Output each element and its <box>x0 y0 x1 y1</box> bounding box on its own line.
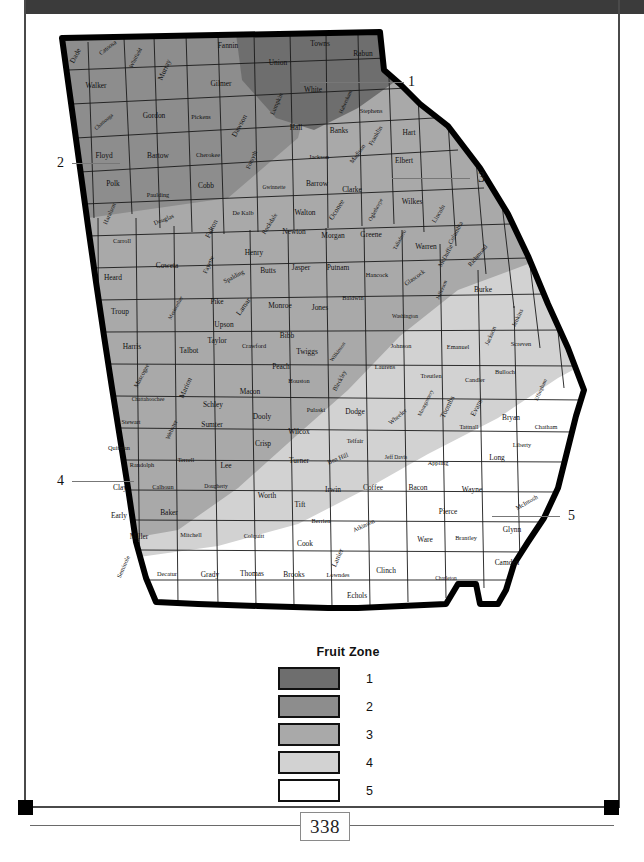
county-label: Fannin <box>218 41 239 50</box>
legend-item: 2 <box>278 695 418 718</box>
county-label: Grady <box>201 570 220 579</box>
county-label: Telfair <box>347 437 365 444</box>
legend-item: 3 <box>278 723 418 746</box>
county-label: Talbot <box>180 346 200 355</box>
county-label: Floyd <box>95 151 113 160</box>
county-label: Pulaski <box>307 406 326 413</box>
county-label: Jeff Davis <box>385 454 407 460</box>
county-label: Lowndes <box>326 571 350 578</box>
county-label: Mitchell <box>180 531 202 538</box>
county-label: Terrell <box>178 456 195 463</box>
callout-number-1: 1 <box>408 74 415 90</box>
county-label: Bibb <box>280 331 295 340</box>
county-label: Newton <box>282 227 306 236</box>
callout-number-4: 4 <box>57 473 64 489</box>
page-top-band <box>24 0 644 14</box>
county-label: Wayne <box>462 485 483 494</box>
page-border-right <box>618 0 620 808</box>
county-label: Crisp <box>255 439 271 448</box>
callout-leader-3 <box>392 178 470 179</box>
county-label: Pierce <box>439 507 458 516</box>
county-label: Turner <box>289 456 309 465</box>
legend-item: 1 <box>278 667 418 690</box>
county-label: Henry <box>245 248 264 257</box>
county-label: Hancock <box>366 271 389 278</box>
county-label: Cook <box>297 539 313 548</box>
map-svg: DadeCatoosaWhitfieldMurrayFanninUnionTow… <box>28 18 614 638</box>
county-label: Barrow <box>306 179 329 188</box>
county-label: Rabun <box>353 49 373 58</box>
county-label: Chattahoochee <box>132 396 165 402</box>
legend-label: 1 <box>366 672 373 686</box>
county-label: Charleton <box>435 575 457 581</box>
county-label: Dougherty <box>204 483 228 489</box>
legend-swatch-1 <box>278 667 340 690</box>
county-label: Chatham <box>535 423 558 430</box>
county-label: Stewart <box>121 418 140 425</box>
county-label: Sumter <box>201 420 223 429</box>
county-label: Emanuel <box>447 343 470 350</box>
county-label: Miller <box>130 532 149 541</box>
county-label: Camden <box>495 558 520 567</box>
legend-label: 2 <box>366 700 373 714</box>
county-label: Appling <box>428 459 449 466</box>
county-label: Upson <box>214 320 234 329</box>
county-label: Glynn <box>503 525 522 534</box>
county-label: Randolph <box>130 461 155 468</box>
legend-swatch-2 <box>278 695 340 718</box>
county-label: Towns <box>310 39 330 48</box>
callout-leader-1 <box>300 82 404 83</box>
page-border-left <box>24 0 26 808</box>
county-label: Harris <box>123 342 142 351</box>
legend-rows: 12345 <box>278 667 418 802</box>
county-label: Candler <box>465 376 486 383</box>
callout-number-5: 5 <box>568 508 575 524</box>
county-label: Seminole <box>115 554 131 579</box>
county-label: Bulloch <box>495 368 516 375</box>
county-label: Tattnall <box>459 423 478 430</box>
county-label: Baker <box>160 508 178 517</box>
county-label: Decatur <box>157 570 178 577</box>
county-label: Bacon <box>409 483 428 492</box>
county-label: Calhoun <box>152 483 174 490</box>
county-label: Liberty <box>513 441 532 448</box>
page-number: 338 <box>300 812 350 841</box>
legend-swatch-4 <box>278 751 340 774</box>
county-label: Bryan <box>502 413 520 422</box>
county-label: Greene <box>360 230 382 239</box>
county-label: Cobb <box>198 181 214 190</box>
county-label: Morgan <box>321 231 345 240</box>
callout-leader-4 <box>72 481 134 482</box>
county-label: Washington <box>392 313 418 319</box>
legend-title: Fruit Zone <box>278 645 418 659</box>
legend-item: 5 <box>278 779 418 802</box>
legend-label: 4 <box>366 756 373 770</box>
county-label: Wilkes <box>402 197 423 206</box>
county-label: Ware <box>417 535 433 544</box>
county-label: Stephens <box>360 107 383 114</box>
georgia-fruit-zone-map: DadeCatoosaWhitfieldMurrayFanninUnionTow… <box>28 18 614 638</box>
county-label: Worth <box>258 491 277 500</box>
county-label: Walton <box>294 208 315 217</box>
county-label: Screven <box>511 340 532 347</box>
county-label: Irwin <box>325 485 341 494</box>
county-label: Schley <box>203 400 223 409</box>
county-label: Brooks <box>283 570 304 579</box>
county-label: Bartow <box>147 151 169 160</box>
county-label: Walker <box>85 81 107 90</box>
county-label: Paulding <box>147 191 170 198</box>
county-label: Coweta <box>156 261 179 270</box>
county-label: Brantley <box>455 534 478 541</box>
county-label: Gilmer <box>211 79 232 88</box>
county-label: Butts <box>260 266 276 275</box>
county-label: Pickens <box>191 113 211 120</box>
county-label: Colquitt <box>244 532 265 539</box>
county-label: Wilcox <box>288 427 310 436</box>
callout-leader-2 <box>72 163 120 164</box>
legend-item: 4 <box>278 751 418 774</box>
county-label: Peach <box>272 362 290 371</box>
county-label: Troup <box>111 307 129 316</box>
county-label: Baldwin <box>342 294 364 301</box>
county-label: Burke <box>474 285 493 294</box>
county-label: Echols <box>347 591 367 600</box>
